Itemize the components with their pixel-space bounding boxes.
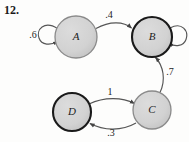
node-A[interactable]: A xyxy=(55,16,97,58)
node-B[interactable]: B xyxy=(132,17,172,57)
edge-label-C-B: .7 xyxy=(166,66,174,77)
edge-C-to-B-path xyxy=(156,58,164,93)
edge-A-to-B-path xyxy=(96,23,132,29)
edge-label-D-C: 1 xyxy=(108,86,113,97)
edge-label-A-A: .6 xyxy=(29,29,37,40)
node-A-label: A xyxy=(72,30,80,42)
edge-A-to-B: .4 xyxy=(96,9,132,28)
node-C-label: C xyxy=(148,103,156,115)
node-C[interactable]: C xyxy=(133,91,171,129)
node-D-label: D xyxy=(67,105,76,117)
edge-D-to-C-path xyxy=(89,99,135,104)
edge-label-A-B: .4 xyxy=(105,9,113,20)
node-D[interactable]: D xyxy=(53,93,91,131)
state-diagram: .6 .4 .7 1 .3 A xyxy=(0,0,189,142)
node-B-label: B xyxy=(149,30,156,42)
figure-canvas: 12. .6 .4 xyxy=(0,0,189,142)
edge-label-C-D: .3 xyxy=(107,127,115,138)
edge-D-to-C: 1 xyxy=(89,86,135,104)
edge-C-to-B: .7 xyxy=(156,58,174,93)
edge-A-to-A: .6 xyxy=(29,25,57,44)
edge-C-to-D: .3 xyxy=(90,123,136,138)
